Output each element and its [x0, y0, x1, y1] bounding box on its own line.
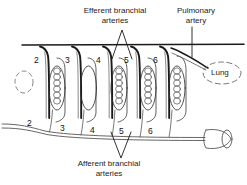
heart-chamber	[222, 130, 232, 148]
pulmonary-label-line2: artery	[168, 16, 224, 26]
gill-4	[140, 66, 156, 110]
efferent-artery-6-inner	[165, 52, 167, 118]
efferent-artery-2	[40, 47, 49, 119]
dorsal-aorta	[22, 44, 244, 45]
efferent-label-line1: Efferent branchial	[74, 6, 156, 16]
efferent-artery-3	[72, 47, 81, 119]
ventral-aorta-lower	[2, 128, 205, 141]
gill-3-lamellae	[116, 68, 123, 104]
arch-number-top-2: 2	[34, 56, 39, 65]
efferent-artery-2-inner	[45, 52, 47, 118]
afferent-label-line1: Afferent branchial	[66, 159, 152, 169]
diagram-canvas: Efferent branchial arteries Pulmonary ar…	[0, 0, 247, 185]
efferent-artery-6	[160, 47, 169, 119]
efferent-artery-4-inner	[108, 52, 110, 118]
afferent-label-line2: arteries	[66, 169, 152, 179]
gill-1-lamellae	[54, 68, 61, 104]
lung-label: Lung	[211, 68, 229, 77]
arch-number-bottom-4: 4	[90, 126, 95, 135]
efferent-artery-4	[103, 47, 112, 119]
aortic-arches-svg	[0, 0, 247, 185]
arch-number-top-4: 4	[96, 56, 101, 65]
pulmonary-label-line1: Pulmonary	[168, 6, 224, 16]
heart-outline	[204, 129, 231, 148]
gill-2	[81, 66, 97, 110]
efferent-label-line2: arteries	[74, 16, 156, 26]
efferent-artery-3-inner	[77, 52, 79, 118]
efferent-artery-5	[131, 47, 140, 119]
gill-3	[111, 66, 127, 110]
gill-4-lamellae	[145, 68, 152, 104]
gill-1	[49, 66, 65, 110]
arch-number-bottom-5: 5	[119, 127, 124, 136]
arch-number-top-5: 5	[124, 56, 129, 65]
efferent-artery-5-inner	[136, 52, 138, 118]
arch-number-bottom-6: 6	[148, 127, 153, 136]
arch-number-top-3: 3	[65, 56, 70, 65]
arch-number-top-6: 6	[153, 56, 158, 65]
pulmonary-artery-vessel-inner	[172, 53, 206, 70]
pulmonary-artery-vessel	[171, 48, 208, 68]
arch-number-bottom-2: 2	[27, 119, 32, 128]
arch-number-bottom-3: 3	[60, 124, 65, 133]
vestigial-arch-1-dashed	[15, 71, 33, 93]
gill-5-lamellae	[174, 68, 181, 104]
gill-5	[169, 66, 185, 110]
